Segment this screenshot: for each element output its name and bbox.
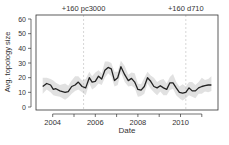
annotation-label: +160 pc3000 [62, 4, 106, 13]
x-tick-label: 2006 [87, 118, 104, 127]
x-tick-label: 2004 [44, 118, 61, 127]
x-axis-label: Date [119, 126, 136, 135]
y-axis-label: Avg. topology size [3, 32, 12, 93]
annotation-label: +160 d710 [168, 4, 204, 13]
y-tick-label: 50 [18, 30, 26, 37]
x-tick-label: 2010 [172, 118, 189, 127]
chart-container: +160 pc3000+160 d710 0102030405060 20042… [0, 0, 229, 145]
y-tick-label: 10 [18, 89, 26, 96]
y-tick-label: 40 [18, 45, 26, 52]
y-tick-label: 0 [22, 104, 26, 111]
topology-size-chart: +160 pc3000+160 d710 0102030405060 20042… [0, 0, 229, 145]
y-axis: 0102030405060 [18, 16, 31, 111]
y-tick-label: 30 [18, 60, 26, 67]
y-tick-label: 60 [18, 16, 26, 23]
y-tick-label: 20 [18, 74, 26, 81]
